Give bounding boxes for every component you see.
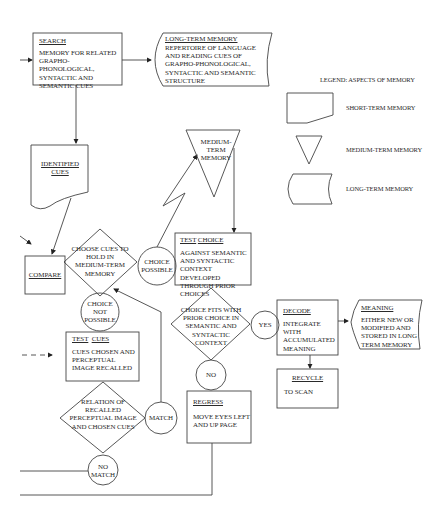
long-term-body: REPERTOIRE OF LANGUAGE AND READING CUES … xyxy=(165,44,271,85)
medium-term-label: MEDIUM-TERM MEMORY xyxy=(195,138,237,163)
decode-title: DECODE xyxy=(283,307,311,315)
legend-medium-term-label: MEDIUM-TERM MEMORY xyxy=(346,146,422,154)
test-choice-body: AGAINST SEMANTIC AND SYNTACTIC CONTEXT D… xyxy=(180,249,252,298)
long-term-title: LONG-TERM MEMORY xyxy=(165,35,238,43)
test-cues-title: TEST CUES xyxy=(72,335,109,343)
legend-long-term-label: LONG-TERM MEMORY xyxy=(346,185,413,193)
search-title: SEARCH xyxy=(39,37,66,45)
choice-possible-text: CHOICE POSSIBLE xyxy=(140,258,174,274)
recycle-body: TO SCAN xyxy=(284,388,313,396)
test-choice-title-2: CHOICE xyxy=(198,236,223,244)
regress-title: REGRESS xyxy=(193,398,223,406)
no-match-text: NO MATCH xyxy=(88,463,118,479)
no-text: NO xyxy=(198,371,224,379)
legend-medium-term-shape xyxy=(296,136,322,164)
identified-cues-title: IDENTIFIED CUES xyxy=(38,160,82,176)
test-cues-body: CUES CHOSEN AND PERCEPTUAL IMAGE RECALLE… xyxy=(72,348,138,373)
relation-text: RELATION OF RECALLED PERCEPTUAL IMAGE AN… xyxy=(68,398,138,431)
test-cues-title-1: TEST xyxy=(72,335,88,343)
recycle-title: RECYCLE xyxy=(277,374,338,382)
choice-fits-text: CHOICE FITS WITH PRIOR CHOICE IN SEMANTI… xyxy=(178,306,244,347)
match-text: MATCH xyxy=(146,414,176,422)
decode-body: INTEGRATE WITH ACCUMULATED MEANING xyxy=(283,320,339,353)
regress-body: MOVE EYES LEFT AND UP PAGE xyxy=(193,413,251,429)
legend-long-term-shape xyxy=(288,174,332,204)
yes-text: YES xyxy=(252,321,278,329)
meaning-title: MEANING xyxy=(361,304,393,312)
test-choice-title: TEST CHOICE xyxy=(180,236,223,244)
choose-cues-text: CHOOSE CUES TO HOLD IN MEDIUM-TERM MEMOR… xyxy=(70,245,130,278)
test-choice-title-1: TEST xyxy=(180,236,196,244)
meaning-body: EITHER NEW OR MODIFIED AND STORED IN LON… xyxy=(361,316,419,349)
legend-short-term-shape xyxy=(287,93,333,123)
legend-title: LEGEND: ASPECTS OF MEMORY xyxy=(320,76,415,84)
legend-short-term-label: SHORT-TERM MEMORY xyxy=(346,104,415,112)
identified-cues-shape xyxy=(31,145,88,209)
test-cues-title-2: CUES xyxy=(92,335,110,343)
compare-title: COMPARE xyxy=(25,271,65,279)
search-body: MEMORY FOR RELATED GRAPHO-PHONOLOGICAL, … xyxy=(39,49,121,90)
choice-not-possible-text: CHOICE NOT POSSIBLE xyxy=(84,300,116,325)
